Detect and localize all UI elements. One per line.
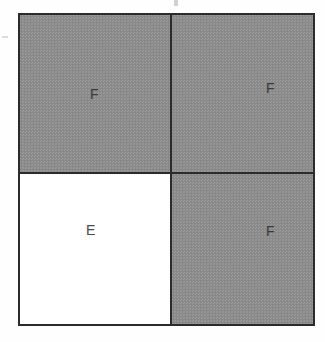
grid-diagram: F F E F bbox=[18, 13, 315, 326]
scan-artifact-left bbox=[2, 36, 8, 38]
grid-cell-top-left: F bbox=[20, 15, 172, 174]
figure-canvas: F F E F bbox=[0, 0, 325, 342]
cell-label-bottom-left: E bbox=[86, 223, 96, 237]
cell-label-top-right: F bbox=[266, 81, 275, 95]
cell-label-bottom-right: F bbox=[266, 224, 275, 238]
cell-label-top-left: F bbox=[90, 87, 99, 101]
grid-cell-bottom-left: E bbox=[20, 174, 172, 324]
scan-artifact-top bbox=[174, 0, 178, 6]
grid-cell-bottom-right: F bbox=[172, 174, 313, 324]
grid-cell-top-right: F bbox=[172, 15, 313, 174]
